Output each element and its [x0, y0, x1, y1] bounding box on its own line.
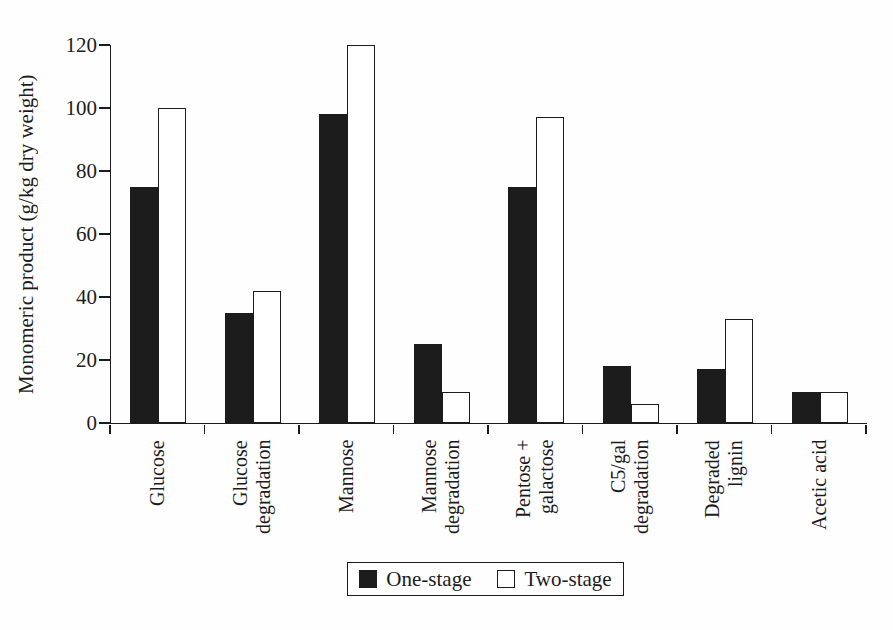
x-axis-tick: [487, 425, 489, 434]
bar-one-stage-degraded-lignin: [697, 369, 725, 423]
bar-two-stage-pentose-galactose: [536, 117, 564, 423]
x-axis-label-pentose-galactose: Pentose +galactose: [512, 440, 558, 580]
bar-two-stage-acetic-acid: [820, 392, 848, 424]
x-axis-tick: [204, 425, 206, 434]
x-axis-label-degraded-lignin: Degradedlignin: [701, 440, 747, 580]
y-axis-tick-label: 0: [35, 410, 97, 436]
bar-two-stage-glucose-degradation: [253, 291, 281, 423]
y-axis-tick: [99, 233, 110, 235]
x-axis-tick: [393, 425, 395, 434]
bar-one-stage-glucose: [130, 187, 158, 423]
x-axis-label-acetic-acid: Acetic acid: [807, 440, 830, 580]
y-axis-tick-label: 40: [35, 284, 97, 310]
x-axis-label-glucose: Glucose: [146, 440, 169, 580]
bar-two-stage-mannose-degradation: [442, 392, 470, 424]
x-axis-label-glucose-degradation: Glucosedegradation: [229, 440, 275, 580]
y-axis-tick: [99, 107, 110, 109]
bar-one-stage-mannose-degradation: [414, 344, 442, 423]
legend: One-stage Two-stage: [347, 562, 624, 596]
x-axis-tick: [865, 425, 867, 434]
x-axis-tick: [109, 425, 111, 434]
bar-two-stage-c5-gal-degradation: [631, 404, 659, 423]
x-axis-tick: [771, 425, 773, 434]
y-axis-tick: [99, 170, 110, 172]
y-axis-tick: [99, 359, 110, 361]
x-axis-tick: [676, 425, 678, 434]
bar-one-stage-c5-gal-degradation: [603, 366, 631, 423]
y-axis-tick: [99, 296, 110, 298]
x-axis-tick: [298, 425, 300, 434]
bar-one-stage-acetic-acid: [792, 392, 820, 424]
x-axis-label-mannose: Mannose: [335, 440, 358, 580]
x-axis-label-c5-gal-degradation: C5/galdegradation: [607, 440, 653, 580]
bar-two-stage-degraded-lignin: [725, 319, 753, 423]
y-axis-tick: [99, 44, 110, 46]
x-axis-label-mannose-degradation: Mannosedegradation: [418, 440, 464, 580]
bar-one-stage-glucose-degradation: [225, 313, 253, 423]
one-stage-swatch-icon: [359, 570, 377, 588]
x-axis-tick: [582, 425, 584, 434]
bar-one-stage-pentose-galactose: [508, 187, 536, 423]
y-axis-tick-label: 60: [35, 221, 97, 247]
y-axis-tick-label: 100: [35, 95, 97, 121]
y-axis-tick-label: 80: [35, 158, 97, 184]
bar-one-stage-mannose: [319, 114, 347, 423]
bar-chart-figure: Monomeric product (g/kg dry weight) One-…: [0, 0, 893, 630]
y-axis-tick-label: 120: [35, 32, 97, 58]
bar-two-stage-glucose: [158, 108, 186, 423]
bar-two-stage-mannose: [347, 45, 375, 423]
plot-area: [110, 45, 867, 424]
y-axis-tick-label: 20: [35, 347, 97, 373]
